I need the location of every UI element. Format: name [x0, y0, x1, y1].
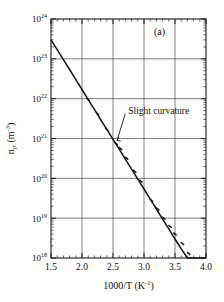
y-axis-title-close: ): [5, 123, 17, 126]
x-axis-title-main: 1000/T (K: [103, 280, 146, 292]
y-tick-exponent: 19: [41, 213, 47, 219]
y-tick-label: 1020: [32, 173, 47, 184]
y-tick-label: 1024: [32, 13, 47, 24]
data-point-marker: [187, 252, 190, 255]
x-axis-title-close: ): [150, 280, 153, 292]
x-tick-label: 2.0: [76, 262, 88, 272]
y-tick-exponent: 18: [41, 252, 47, 258]
y-axis-title-mid: , (m: [5, 131, 17, 147]
y-tick-exponent: 22: [41, 93, 47, 99]
y-tick-exponent: 23: [41, 53, 47, 59]
y-tick-label: 1021: [32, 133, 47, 144]
y-tick-label: 1022: [32, 93, 47, 104]
annotation-slight-curvature: Slight curvature: [128, 106, 189, 116]
y-tick-exponent: 24: [41, 13, 47, 19]
data-point-marker: [181, 242, 184, 245]
data-point-marker: [105, 128, 108, 131]
figure-container: Slight curvature1.52.02.53.03.54.0102410…: [0, 0, 224, 302]
y-tick-exponent: 21: [41, 133, 47, 139]
data-point-marker: [168, 225, 171, 228]
data-point-marker: [173, 233, 176, 236]
semilog-plot: Slight curvature1.52.02.53.03.54.0102410…: [0, 0, 224, 302]
x-tick-label: 3.5: [169, 262, 181, 272]
y-tick-label: 1023: [32, 53, 47, 64]
data-point-marker: [150, 199, 153, 202]
annotation-leader-line: [117, 114, 125, 141]
y-tick-exponent: 20: [41, 173, 47, 179]
x-tick-label: 3.0: [138, 262, 150, 272]
x-tick-label: 4.0: [200, 262, 212, 272]
x-tick-label: 2.5: [107, 262, 119, 272]
data-point-marker: [96, 112, 99, 115]
y-tick-label: 1019: [32, 213, 47, 224]
data-point-marker: [115, 142, 118, 145]
x-axis-title: 1000/T (K-1): [103, 279, 154, 292]
y-axis-title: ni, (m-3): [4, 123, 18, 155]
x-tick-label: 1.5: [45, 262, 57, 272]
panel-label: (a): [154, 26, 165, 38]
data-series-line: [51, 40, 206, 258]
